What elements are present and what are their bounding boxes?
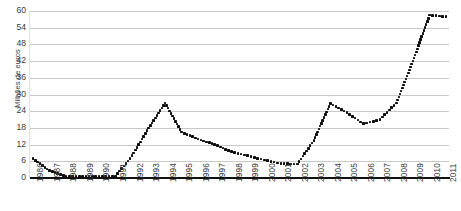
data-point-marker	[144, 132, 147, 135]
data-point-marker	[413, 57, 416, 60]
data-point-marker	[314, 136, 317, 139]
data-point-marker	[386, 111, 389, 114]
data-point-marker	[154, 117, 157, 120]
data-point-marker	[405, 78, 408, 81]
x-tick-label: 1999	[251, 163, 260, 182]
x-tick-label: 2004	[334, 163, 343, 182]
x-tick-label: 2002	[301, 163, 310, 182]
x-tick-label: 1993	[152, 163, 161, 182]
data-point-marker	[131, 154, 134, 157]
data-point-marker	[156, 114, 159, 117]
data-point-marker	[327, 108, 330, 111]
data-point-marker	[403, 81, 406, 84]
data-point-marker	[381, 116, 384, 119]
x-tick-label: 2010	[433, 163, 442, 182]
data-point-marker	[146, 129, 149, 132]
data-point-marker	[369, 121, 372, 124]
plot-area	[30, 11, 449, 178]
data-point-marker	[293, 163, 296, 166]
data-point-marker	[318, 128, 321, 131]
data-point-marker	[161, 107, 164, 110]
x-tick-label: 2005	[350, 163, 359, 182]
data-point-marker	[240, 153, 243, 156]
data-point-marker	[137, 143, 140, 146]
data-point-marker	[316, 131, 319, 134]
x-tick-label: 2001	[284, 163, 293, 182]
data-point-marker	[256, 157, 259, 160]
data-point-marker	[141, 138, 144, 141]
data-point-marker	[441, 15, 444, 18]
chart-container: Milhões de euros 06121824303642485460 19…	[0, 0, 461, 211]
data-point-marker	[147, 127, 150, 130]
data-point-marker	[417, 44, 420, 47]
data-point-marker	[237, 152, 240, 155]
data-point-marker	[414, 54, 417, 57]
x-tick-label: 2009	[416, 163, 425, 182]
x-tick-label: 1992	[136, 163, 145, 182]
x-tick-label: 2007	[383, 163, 392, 182]
data-point-marker	[305, 150, 308, 153]
data-point-marker	[303, 152, 306, 155]
data-point-marker	[315, 133, 318, 136]
data-point-marker	[416, 48, 419, 51]
data-point-marker	[396, 99, 399, 102]
data-point-marker	[307, 147, 310, 150]
x-tick-label: 1987	[53, 163, 62, 182]
data-point-marker	[379, 118, 382, 121]
x-tick-label: 1996	[202, 163, 211, 182]
data-point-marker	[129, 157, 132, 160]
data-point-marker	[388, 109, 391, 112]
gridline	[30, 11, 449, 12]
data-point-marker	[438, 15, 441, 18]
data-point-marker	[136, 146, 139, 149]
data-point-marker	[395, 102, 398, 105]
data-point-marker	[325, 111, 328, 114]
data-point-marker	[149, 124, 152, 127]
y-tick-label: 6	[4, 155, 26, 165]
data-point-marker	[328, 105, 331, 108]
x-tick-label: 2008	[400, 163, 409, 182]
x-tick-label: 1998	[235, 163, 244, 182]
data-point-marker	[445, 15, 448, 18]
x-tick-label: 1991	[119, 163, 128, 182]
data-point-marker	[423, 29, 426, 32]
data-point-marker	[313, 139, 316, 142]
data-point-marker	[407, 72, 410, 75]
data-point-marker	[296, 163, 299, 166]
data-point-marker	[372, 120, 375, 123]
x-tick-label: 2006	[367, 163, 376, 182]
data-point-marker	[233, 151, 236, 154]
data-point-marker	[253, 156, 256, 159]
gridline	[30, 145, 449, 146]
x-tick-label: 2003	[317, 163, 326, 182]
data-point-marker	[398, 96, 401, 99]
data-point-marker	[393, 104, 396, 107]
gridline	[30, 78, 449, 79]
y-tick-label: 12	[4, 139, 26, 149]
data-point-marker	[390, 106, 393, 109]
data-point-marker	[400, 90, 403, 93]
data-point-marker	[260, 158, 263, 161]
x-tick-label: 1994	[169, 163, 178, 182]
data-point-marker	[302, 155, 305, 158]
data-point-marker	[431, 14, 434, 17]
data-point-marker	[324, 113, 327, 116]
data-point-marker	[408, 69, 411, 72]
data-point-marker	[426, 20, 429, 23]
data-point-marker	[365, 122, 368, 125]
data-point-marker	[409, 66, 412, 69]
data-point-marker	[139, 141, 142, 144]
data-point-marker	[280, 162, 283, 165]
gridline	[30, 28, 449, 29]
x-tick-label: 1990	[102, 163, 111, 182]
x-tick-label: 1997	[218, 163, 227, 182]
data-point-marker	[323, 116, 326, 119]
data-point-marker	[420, 35, 423, 38]
data-point-marker	[142, 135, 145, 138]
x-tick-label: 1995	[185, 163, 194, 182]
data-point-marker	[250, 155, 253, 158]
data-point-marker	[419, 38, 422, 41]
data-point-marker	[246, 154, 249, 157]
data-point-marker	[321, 119, 324, 122]
y-tick-label: 0	[4, 172, 26, 182]
